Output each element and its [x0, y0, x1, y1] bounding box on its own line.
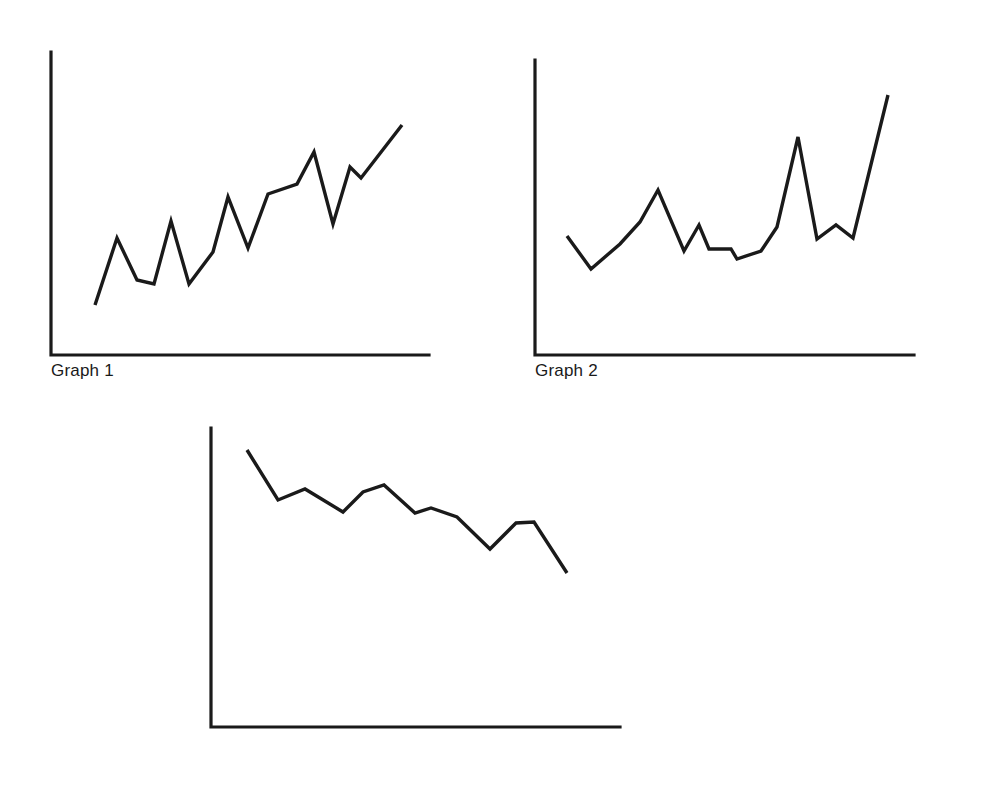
graph-3-axes	[211, 428, 620, 727]
graph-2-caption: Graph 2	[535, 361, 598, 381]
graph-2-plot	[0, 0, 992, 400]
panel-graph-3: Graph 3	[0, 400, 992, 809]
graph-3-plot	[0, 400, 992, 809]
graph-2-series-line	[567, 95, 888, 269]
three-graphs-figure: Graph 1 Graph 2 Graph 3	[0, 0, 992, 809]
graph-2-axes	[535, 60, 914, 355]
graph-3-series-line	[247, 450, 567, 573]
panel-graph-2: Graph 2	[0, 0, 992, 400]
